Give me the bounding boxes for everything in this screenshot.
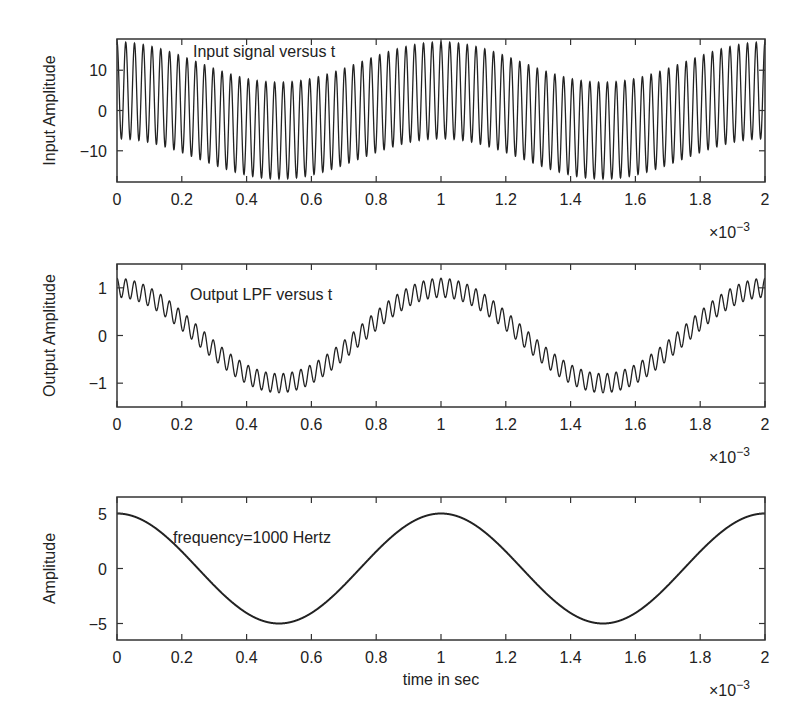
x-tick-label: 1.4: [559, 416, 581, 433]
y-tick-label: 5: [98, 506, 107, 523]
x-tick-label: 1: [437, 416, 446, 433]
x-tick-label: 0: [113, 416, 122, 433]
x-tick-label: 0.4: [235, 649, 257, 666]
x-tick-label: 0: [113, 649, 122, 666]
x-tick-label: 0.4: [235, 191, 257, 208]
y-tick-label: −10: [80, 143, 107, 160]
x-tick-label: 1.4: [559, 649, 581, 666]
y-tick-label: 0: [98, 103, 107, 120]
x-tick-label: 1.2: [495, 191, 517, 208]
signal-line: [117, 42, 765, 179]
x-tick-label: 2: [761, 649, 770, 666]
x-tick-label: 1.8: [689, 416, 711, 433]
x-tick-label: 2: [761, 416, 770, 433]
x-tick-label: 0.8: [365, 416, 387, 433]
y-tick-label: 10: [89, 62, 107, 79]
amplitude-label: Amplitude: [41, 533, 58, 604]
x-axis-label: time in sec: [403, 671, 479, 688]
reference-1khz-plot: 00.20.40.60.811.21.41.61.8250−5Amplitude…: [41, 497, 770, 699]
x-tick-label: 1.8: [689, 191, 711, 208]
x-tick-label: 0.2: [171, 191, 193, 208]
x-exponent-label: ×10−3: [709, 445, 750, 466]
axes-box: [117, 39, 765, 182]
x-tick-label: 1.4: [559, 191, 581, 208]
output-amplitude-label: Output Amplitude: [41, 274, 58, 397]
x-tick-label: 0.6: [300, 191, 322, 208]
plot-annotation: Output LPF versus t: [190, 286, 333, 303]
x-tick-label: 1: [437, 191, 446, 208]
x-tick-label: 0.4: [235, 416, 257, 433]
input-amplitude-label: Input Amplitude: [41, 55, 58, 165]
plot-annotation: frequency=1000 Hertz: [173, 529, 331, 546]
x-tick-label: 0.6: [300, 649, 322, 666]
y-tick-label: 1: [98, 280, 107, 297]
x-tick-label: 1.2: [495, 416, 517, 433]
x-tick-label: 1.2: [495, 649, 517, 666]
plot-annotation: Input signal versus t: [193, 43, 336, 60]
x-tick-label: 0.8: [365, 649, 387, 666]
output-lpf-plot: 00.20.40.60.811.21.41.61.8210−1Output Am…: [41, 264, 770, 466]
x-tick-label: 1.8: [689, 649, 711, 666]
x-tick-label: 1.6: [624, 416, 646, 433]
y-tick-label: 0: [98, 561, 107, 578]
x-tick-label: 0.2: [171, 416, 193, 433]
x-tick-label: 2: [761, 191, 770, 208]
x-exponent-label: ×10−3: [709, 220, 750, 241]
figure: 00.20.40.60.811.21.41.61.82100−10Input A…: [0, 0, 807, 727]
y-tick-label: −5: [89, 616, 107, 633]
x-tick-label: 1.6: [624, 649, 646, 666]
y-tick-label: −1: [89, 375, 107, 392]
y-tick-label: 0: [98, 328, 107, 345]
axes-box: [117, 497, 765, 640]
x-tick-label: 0.2: [171, 649, 193, 666]
x-tick-label: 1: [437, 649, 446, 666]
x-tick-label: 0.8: [365, 191, 387, 208]
x-tick-label: 0.6: [300, 416, 322, 433]
x-exponent-label: ×10−3: [709, 678, 750, 699]
x-tick-label: 1.6: [624, 191, 646, 208]
input-signal-plot: 00.20.40.60.811.21.41.61.82100−10Input A…: [41, 39, 770, 241]
x-tick-label: 0: [113, 191, 122, 208]
